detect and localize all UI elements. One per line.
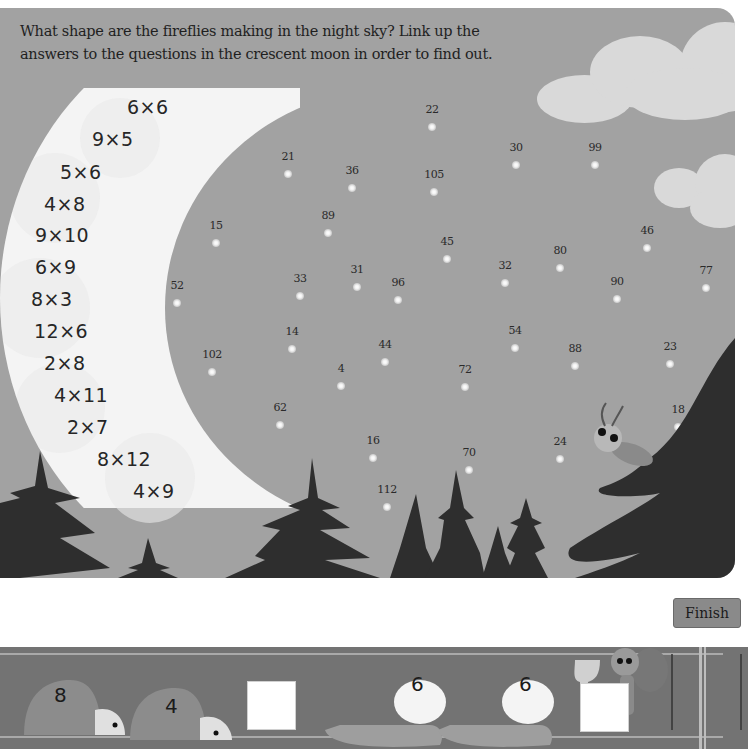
firefly-character xyxy=(594,403,656,471)
caterpillar-1 xyxy=(325,680,446,747)
ladybug-1 xyxy=(24,680,125,735)
ladybug-number-1: 8 xyxy=(54,683,67,707)
ladybug-number-2: 4 xyxy=(165,694,178,718)
answer-box-ladybugs[interactable] xyxy=(247,681,296,730)
caterpillar-number-2: 6 xyxy=(519,672,532,696)
night-sky-scene: What shape are the fireflies making in t… xyxy=(0,8,735,578)
answer-box-caterpillars[interactable] xyxy=(580,683,629,732)
finish-flag: Finish xyxy=(673,598,741,628)
ladybug-2 xyxy=(130,688,232,740)
race-characters xyxy=(0,640,748,749)
caterpillar-2 xyxy=(438,680,554,747)
caterpillar-number-1: 6 xyxy=(411,672,424,696)
forest-silhouette xyxy=(0,8,735,578)
